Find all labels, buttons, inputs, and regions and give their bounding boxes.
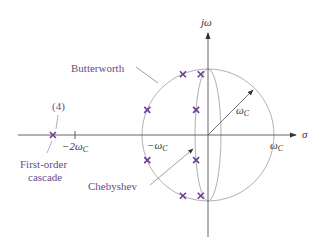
pos-wc-label: ωC [270, 139, 284, 153]
pole-diagram: jω σ −2ωC −ωC ωC ωC Butterworth Chebyshe… [0, 0, 324, 243]
butterworth-pole-marker [180, 71, 186, 77]
butterworth-pole-marker [180, 193, 186, 199]
neg-wc-label: −ωC [147, 139, 168, 153]
sigma-label: σ [302, 128, 308, 140]
radius-wc-label: ωC [236, 104, 250, 118]
neg-2wc-label: −2ωC [62, 140, 89, 154]
cascade-leader-top [56, 115, 58, 129]
cascade-leader-bottom [47, 141, 52, 153]
chebyshev-leader [150, 149, 193, 185]
butterworth-pole-marker [144, 157, 150, 163]
butterworth-label: Butterworth [71, 62, 125, 74]
cascade-label-line2: cascade [28, 171, 62, 183]
chebyshev-label: Chebyshev [88, 180, 137, 192]
cascade-count-label: (4) [52, 100, 65, 113]
butterworth-leader [136, 67, 158, 83]
jw-label: jω [199, 16, 212, 28]
diagram-canvas: jω σ −2ωC −ωC ωC ωC Butterworth Chebyshe… [0, 0, 324, 243]
cascade-label-line1: First-order [20, 158, 67, 170]
butterworth-pole-marker [144, 107, 150, 113]
